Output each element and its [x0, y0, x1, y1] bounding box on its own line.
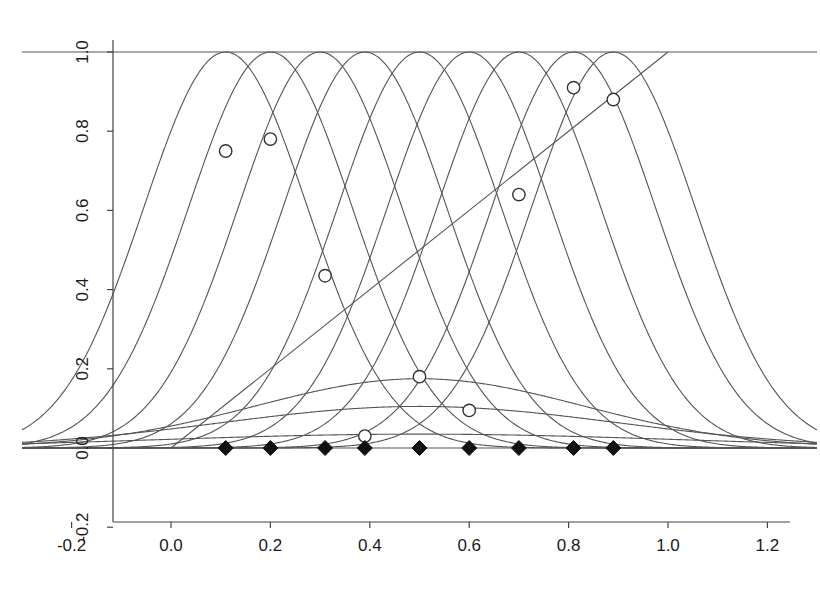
data-point-diamond: [218, 441, 233, 456]
curve-layer: [22, 52, 817, 448]
y-tick-label: 0.8: [73, 119, 92, 143]
x-tick-label: 1.0: [656, 536, 680, 555]
y-tick-label: 0.6: [73, 199, 92, 223]
y-tick-label: 1.0: [73, 40, 92, 64]
y-tick-label: 0.0: [73, 436, 92, 460]
y-tick-label: 0.2: [73, 357, 92, 381]
data-point-circle: [413, 371, 425, 383]
axis-layer: -0.20.00.20.40.60.81.01.2-0.20.00.20.40.…: [57, 40, 790, 555]
x-tick-label: 0.4: [358, 536, 382, 555]
x-tick-label: 0.2: [259, 536, 283, 555]
identity-line: [171, 52, 668, 448]
data-point-circle: [319, 270, 331, 282]
x-tick-label: 0.6: [457, 536, 481, 555]
data-point-circle: [513, 188, 525, 200]
data-point-circle: [607, 93, 619, 105]
data-point-circle: [567, 81, 579, 93]
x-tick-label: 0.0: [159, 536, 183, 555]
data-point-diamond: [566, 441, 581, 456]
marker-layer-fitted-points: [219, 81, 619, 442]
y-tick-label: -0.2: [73, 513, 92, 542]
x-tick-label: 0.8: [557, 536, 581, 555]
data-point-circle: [264, 133, 276, 145]
data-point-diamond: [412, 441, 427, 456]
data-point-diamond: [462, 441, 477, 456]
chart-canvas: -0.20.00.20.40.60.81.01.2-0.20.00.20.40.…: [0, 0, 820, 603]
y-tick-label: 0.4: [73, 278, 92, 302]
x-tick-label: 1.2: [756, 536, 780, 555]
data-point-circle: [219, 145, 231, 157]
data-point-circle: [463, 404, 475, 416]
chart-figure: -0.20.00.20.40.60.81.01.2-0.20.00.20.40.…: [0, 0, 820, 603]
